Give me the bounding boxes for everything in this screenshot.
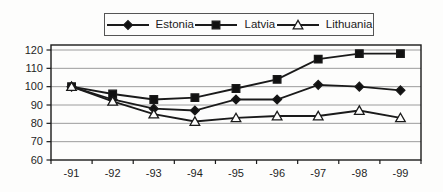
y-axis-label-90: 90 xyxy=(31,99,43,111)
y-axis-label-60: 60 xyxy=(31,154,43,166)
latvia-point--97 xyxy=(314,55,322,63)
y-axis-label-80: 80 xyxy=(31,117,43,129)
x-axis-label--95: -95 xyxy=(228,167,244,179)
latvia-point--99 xyxy=(397,50,405,58)
estonia-point--95 xyxy=(232,95,241,104)
latvia-point--94 xyxy=(191,94,199,102)
y-axis-label-70: 70 xyxy=(31,135,43,147)
baltic-index-line-chart-figure: EstoniaLatviaLithuania 60708090100110120… xyxy=(0,0,443,192)
x-axis-label--96: -96 xyxy=(269,167,285,179)
y-axis-label-110: 110 xyxy=(25,62,43,74)
x-axis-label--92: -92 xyxy=(105,167,121,179)
x-axis-label--97: -97 xyxy=(310,167,326,179)
latvia-point--93 xyxy=(150,96,158,104)
x-axis-label--94: -94 xyxy=(187,167,203,179)
x-axis-label--98: -98 xyxy=(351,167,367,179)
estonia-point--97 xyxy=(314,80,323,89)
estonia-point--99 xyxy=(396,86,405,95)
line-chart-plot: 60708090100110120-91-92-93-94-95-96-97-9… xyxy=(0,0,443,192)
estonia-point--98 xyxy=(355,82,364,91)
x-axis-label--99: -99 xyxy=(392,167,408,179)
latvia-point--95 xyxy=(232,85,240,93)
latvia-point--96 xyxy=(273,76,281,84)
x-axis-label--93: -93 xyxy=(146,167,162,179)
latvia-point--98 xyxy=(356,50,364,58)
estonia-point--96 xyxy=(273,95,282,104)
estonia-point--94 xyxy=(190,106,199,115)
x-axis-label--91: -91 xyxy=(64,167,80,179)
y-axis-label-120: 120 xyxy=(25,44,43,56)
y-axis-label-100: 100 xyxy=(25,80,43,92)
